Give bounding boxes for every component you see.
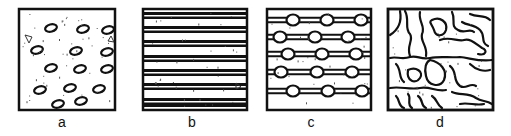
speck — [456, 34, 457, 35]
speck — [59, 77, 60, 79]
speck — [184, 106, 185, 107]
speck — [39, 52, 40, 53]
speck — [362, 52, 363, 53]
speck — [446, 71, 447, 73]
speck — [207, 67, 208, 68]
speck — [198, 24, 199, 26]
bead — [287, 86, 300, 97]
speck — [364, 57, 365, 59]
speck — [355, 94, 356, 95]
bead — [342, 32, 355, 43]
speck — [417, 87, 418, 89]
speck — [156, 62, 157, 63]
speck — [156, 82, 157, 84]
speck — [92, 45, 93, 46]
speck — [405, 69, 406, 70]
speck — [236, 52, 237, 53]
speck — [367, 84, 368, 85]
speck — [277, 58, 278, 60]
speck — [218, 76, 219, 77]
bead — [287, 15, 300, 26]
bead — [356, 86, 369, 97]
band-line — [143, 105, 247, 107]
speck — [432, 96, 433, 97]
speck — [89, 73, 90, 74]
speck — [182, 40, 183, 42]
band-line — [143, 98, 247, 101]
bead — [282, 49, 295, 60]
speck — [458, 63, 459, 65]
speck — [27, 101, 28, 103]
speck — [398, 30, 399, 32]
bead — [346, 67, 359, 78]
band-line — [143, 69, 247, 72]
panel-c-beaded-chains — [267, 9, 371, 110]
speck — [71, 43, 72, 44]
panel-d-network — [388, 9, 493, 110]
panel-b-label: b — [188, 114, 196, 130]
speck — [422, 94, 423, 96]
speck — [408, 92, 409, 93]
band-line — [143, 74, 247, 77]
speck — [343, 74, 344, 75]
speck — [477, 88, 478, 89]
speck — [478, 95, 479, 96]
speck — [211, 51, 212, 52]
speck — [454, 75, 455, 76]
speck — [193, 90, 194, 92]
speck — [334, 82, 335, 84]
band-line — [143, 60, 247, 63]
speck — [289, 28, 290, 29]
speck — [399, 80, 400, 82]
speck — [444, 37, 445, 39]
speck — [232, 102, 233, 103]
speck — [306, 102, 307, 104]
speck — [43, 40, 44, 42]
speck — [439, 36, 440, 38]
speck — [298, 60, 299, 62]
microstructure-figure: a b c d — [0, 0, 511, 136]
speck — [289, 76, 290, 77]
speck — [66, 65, 67, 66]
speck — [23, 46, 24, 47]
speck — [103, 37, 104, 38]
band-line — [143, 103, 247, 106]
panel-a-isolated-inclusions — [19, 9, 115, 110]
speck — [353, 103, 354, 104]
speck — [63, 95, 64, 96]
speck — [210, 13, 211, 14]
speck — [362, 18, 363, 19]
speck — [152, 43, 153, 44]
speck — [394, 54, 395, 55]
speck — [81, 19, 82, 20]
speck — [158, 86, 159, 87]
speck — [81, 95, 82, 96]
bead — [274, 32, 287, 43]
speck — [46, 85, 47, 87]
band-line — [143, 88, 247, 91]
panel-a-frame — [19, 9, 115, 110]
panel-d-label: d — [436, 114, 444, 130]
panel-a-label: a — [58, 114, 66, 130]
speck — [300, 37, 301, 39]
speck — [171, 17, 172, 18]
speck — [97, 92, 98, 93]
bead — [321, 15, 334, 26]
speck — [278, 72, 279, 74]
speck — [220, 24, 221, 25]
speck — [83, 39, 84, 40]
speck — [67, 17, 68, 18]
bead — [311, 67, 324, 78]
speck — [67, 54, 68, 56]
speck — [364, 14, 365, 15]
bead — [275, 67, 288, 78]
speck — [223, 89, 224, 91]
speck — [34, 28, 35, 29]
speck — [457, 106, 458, 107]
speck — [88, 37, 89, 39]
speck — [176, 61, 177, 63]
speck — [43, 76, 44, 77]
speck — [24, 43, 25, 44]
band-line — [143, 55, 247, 58]
speck — [193, 59, 194, 61]
